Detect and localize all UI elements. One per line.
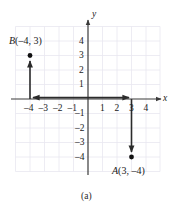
y-tick-label-neg3: –3 bbox=[75, 138, 85, 148]
x-tick-label-neg4: –4 bbox=[24, 104, 34, 114]
x-tick-label-neg2: –2 bbox=[53, 104, 63, 114]
y-tick-label-4: 4 bbox=[79, 37, 84, 47]
point-a-coords: (3, –4) bbox=[118, 165, 145, 176]
x-tick-label-3: 3 bbox=[129, 104, 134, 114]
y-tick-label-2: 2 bbox=[79, 66, 84, 76]
x-tick-label-2: 2 bbox=[115, 104, 120, 114]
x-tick-label-neg3: –3 bbox=[39, 104, 49, 114]
point-b-marker bbox=[28, 53, 33, 58]
y-axis-label: y bbox=[92, 10, 96, 20]
y-tick-label-3: 3 bbox=[79, 51, 84, 61]
figure-caption: (a) bbox=[81, 192, 92, 202]
point-a-marker bbox=[129, 155, 134, 160]
x-tick-label-1: 1 bbox=[100, 104, 105, 114]
y-tick-label-neg4: –4 bbox=[75, 153, 85, 163]
coordinate-plane-figure: y x –4 –3 –2 –1 1 2 3 4 4 3 2 1 –1 –2 –3… bbox=[0, 0, 176, 211]
y-tick-label-neg1: –1 bbox=[75, 109, 85, 119]
point-label-b: B(–4, 3) bbox=[9, 36, 42, 46]
point-label-a: A(3, –4) bbox=[112, 166, 145, 176]
y-tick-label-1: 1 bbox=[79, 80, 84, 90]
y-tick-label-neg2: –2 bbox=[75, 124, 85, 134]
x-axis-label: x bbox=[163, 94, 167, 104]
point-b-coords: (–4, 3) bbox=[15, 35, 42, 46]
x-tick-label-4: 4 bbox=[144, 104, 149, 114]
